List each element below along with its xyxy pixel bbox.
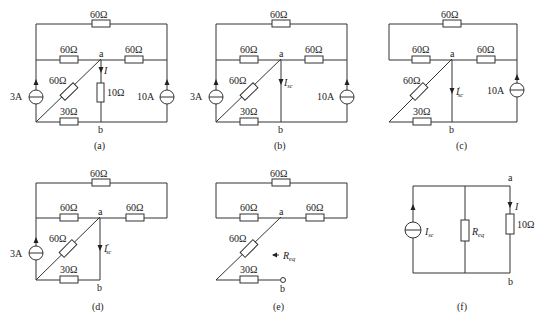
right-mid-resistor-label: 60Ω [125,44,142,55]
current-arrow-icon [99,67,104,73]
node-a-label: a [279,48,284,59]
diag-resistor-label: 60Ω [403,75,420,86]
load-resistor-label: 10Ω [517,219,534,230]
source-arrow-icon [411,204,416,210]
top-resistor-label: 60Ω [270,168,287,179]
node-a-label: a [450,48,455,59]
circuit-figure: 60Ω 60Ω 60Ω 60Ω 30Ω 10Ω I 3A 10A a b (a) [0,0,542,326]
right-mid-resistor [477,56,495,63]
bottom-resistor [60,118,78,125]
right-mid-resistor [305,56,323,63]
left-mid-resistor-label: 60Ω [240,44,257,55]
node-b-label: b [449,124,454,135]
panel-d: 60Ω 60Ω 60Ω 60Ω 30Ω I″sc 3A a b (d) [10,168,167,313]
left-mid-resistor [60,214,78,221]
left-mid-resistor [240,56,258,63]
load-resistor-label: 10Ω [107,87,124,98]
left-source-label: 3A [10,248,23,259]
node-a-label: a [99,48,104,59]
load-resistor [97,83,104,102]
current-label: I″sc [103,242,112,255]
top-resistor [92,20,110,27]
source-arrow-icon [214,79,219,85]
node-a-label: a [98,206,103,217]
caption: (b) [274,140,286,152]
req-label: Req [471,226,485,238]
bottom-resistor-label: 30Ω [240,106,257,117]
right-source-label: 10A [487,85,505,96]
right-source-label: 10A [137,91,155,102]
source-arrow-icon [165,79,170,85]
current-arrow-icon [508,202,513,208]
source-arrow-icon [345,79,350,85]
node-b-label: b [508,276,513,287]
left-mid-resistor-label: 60Ω [60,202,77,213]
left-mid-resistor [412,56,430,63]
load-resistor [506,214,514,234]
bottom-resistor-label: 30Ω [240,264,257,275]
node-b-label: b [278,124,283,135]
caption: (a) [94,140,105,152]
diag-resistor-label: 60Ω [49,75,66,86]
bottom-resistor-label: 30Ω [413,106,430,117]
top-resistor-label: 60Ω [441,9,458,20]
node-a-label: a [508,172,513,183]
top-resistor-label: 60Ω [270,9,287,20]
top-resistor [272,179,290,186]
left-mid-resistor-label: 60Ω [60,44,77,55]
caption: (e) [273,301,284,313]
panel-a: 60Ω 60Ω 60Ω 60Ω 30Ω 10Ω I 3A 10A a b (a) [10,9,174,152]
top-resistor-label: 60Ω [90,9,107,20]
right-mid-resistor-label: 60Ω [126,202,143,213]
diag-resistor-label: 60Ω [229,75,246,86]
caption: (f) [457,301,467,313]
req-label: Req [282,250,296,262]
caption: (d) [92,301,104,313]
current-arrow-icon [98,245,103,251]
current-label: I [514,201,519,212]
panel-f: Isc Req 10Ω I a b (f) [405,172,534,313]
node-a-label: a [279,206,284,217]
panel-c: 60Ω 60Ω 60Ω 60Ω 30Ω I′sc 10A a b (c) [389,9,524,152]
panel-e: 60Ω 60Ω 60Ω 60Ω 30Ω Req a b (e) [216,168,347,313]
bottom-resistor-label: 30Ω [60,264,77,275]
left-mid-resistor-label: 60Ω [412,44,429,55]
top-resistor [443,20,461,27]
right-mid-resistor-label: 60Ω [305,44,322,55]
right-mid-resistor [306,214,324,221]
bottom-wire [389,97,517,122]
left-source-label: 3A [10,91,23,102]
caption: (c) [456,140,467,152]
source-arrow-icon [515,74,520,80]
left-mid-resistor [240,214,258,221]
top-resistor [272,20,290,27]
req-resistor [461,220,469,241]
right-mid-resistor [125,56,143,63]
bottom-resistor-label: 30Ω [60,106,77,117]
panel-b: 60Ω 60Ω 60Ω 60Ω 30Ω Isc 3A 10A a b (b) [190,9,354,152]
bottom-resistor [413,118,431,125]
current-label: Isc [283,77,293,89]
diag-resistor-label: 60Ω [229,233,246,244]
current-arrow-icon [279,79,284,85]
left-mid-resistor-label: 60Ω [240,202,257,213]
top-resistor-label: 60Ω [90,168,107,179]
right-mid-resistor [126,214,144,221]
left-source-label: 3A [190,91,203,102]
diag-resistor-label: 60Ω [49,233,66,244]
bottom-resistor [60,276,78,283]
terminal-b [281,278,286,283]
source-arrow-icon [34,79,39,85]
bottom-resistor [240,118,258,125]
node-b-label: b [98,124,103,135]
req-arrow-icon [272,253,277,258]
node-b-label: b [97,282,102,293]
right-mid-resistor-label: 60Ω [306,202,323,213]
bottom-resistor [240,276,258,283]
node-b-label: b [280,283,285,294]
top-resistor [92,179,110,186]
left-mid-resistor [60,56,78,63]
source-arrow-icon [34,237,39,243]
source-label: Isc [424,226,434,238]
right-mid-resistor-label: 60Ω [477,44,494,55]
